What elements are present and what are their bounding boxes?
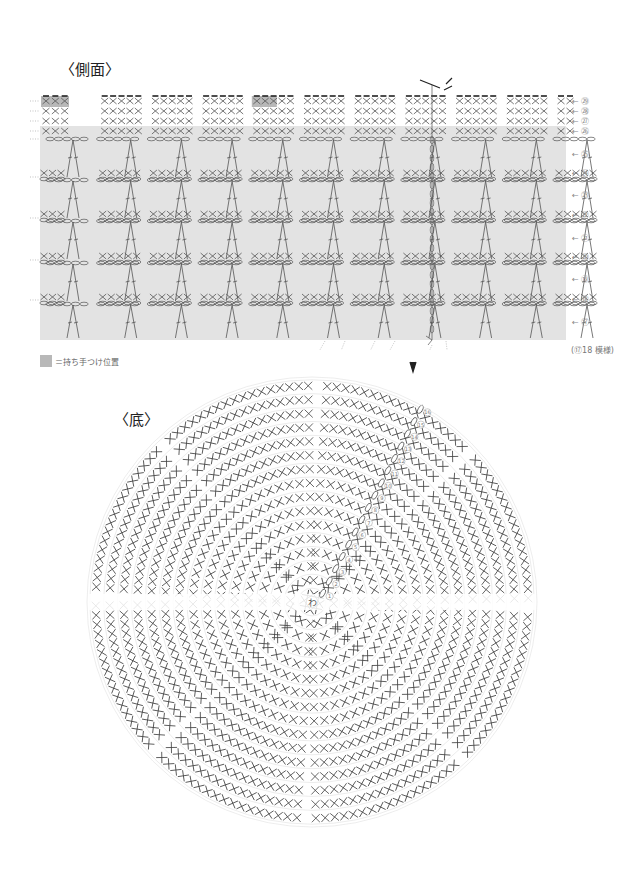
round-number: 6 (361, 532, 364, 538)
round-number: 9 (380, 495, 383, 501)
round-number: 8 (374, 507, 377, 513)
row-label-22: ← ㉒ (572, 209, 589, 220)
row-label-19: ← ⑲ (572, 273, 589, 284)
round-number: 13 (405, 446, 411, 452)
row-label-26: ← ㉖ (572, 125, 589, 136)
round-number: 12 (398, 458, 404, 464)
row-label-25: ← ㉕ (572, 148, 589, 159)
row-label-20: ← ⑳ (572, 251, 589, 262)
round-number: 5 (354, 544, 357, 550)
round-number: 15 (418, 422, 424, 428)
center-ring-label: わ (308, 598, 317, 608)
row-label-23: ← ㉓ (572, 189, 589, 200)
round-number: 7 (367, 520, 370, 526)
round-number: 1 (328, 593, 331, 599)
round-number: 4 (348, 557, 351, 563)
row-label-21: ← ㉑ (572, 232, 589, 243)
round-number: 11 (392, 471, 398, 477)
round-number: 10 (385, 483, 391, 489)
row-label-24: ← ㉔ (572, 167, 589, 178)
row-label-18: ← ⑱ (572, 293, 589, 304)
repeat-note: (⑰18 模様) (571, 344, 614, 355)
round-number: 2 (335, 581, 338, 587)
handle-position-swatch (40, 355, 52, 367)
row-label-17: ← ⑰ (572, 316, 589, 327)
round-number: 3 (341, 569, 344, 575)
round-number: 14 (411, 434, 417, 440)
legend: ＝持ち手つけ位置 (40, 355, 119, 367)
legend-text: ＝持ち手つけ位置 (55, 356, 119, 367)
bottom-crochet-chart: 12345678910111213141516わ (0, 0, 626, 869)
